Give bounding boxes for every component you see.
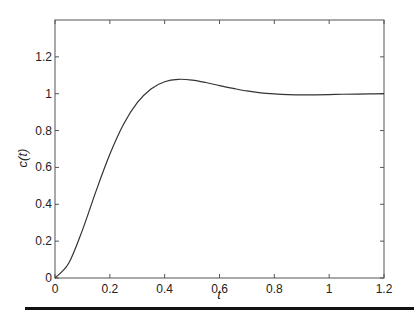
y-axis-label: c(t) (15, 149, 30, 168)
x-tick-label: 0 (52, 282, 59, 296)
x-tick-label: 1.2 (376, 282, 393, 296)
x-tick-label: 1 (326, 282, 333, 296)
plot-area (55, 20, 384, 278)
y-tick-label: 0.6 (35, 160, 52, 174)
step-response-chart: 00.20.40.60.811.2 00.20.40.60.811.2 t c(… (0, 0, 414, 319)
y-tick-label: 1 (45, 87, 52, 101)
y-tick-label: 1.2 (35, 50, 52, 64)
y-tick-label: 0.4 (35, 197, 52, 211)
y-tick-label: 0.2 (35, 234, 52, 248)
y-tick-label: 0 (45, 271, 52, 285)
x-tick-label: 0.2 (101, 282, 118, 296)
horizontal-rule (25, 307, 414, 310)
y-tick-label: 0.8 (35, 124, 52, 138)
x-tick-label: 0.4 (156, 282, 173, 296)
x-tick-label: 0.8 (266, 282, 283, 296)
